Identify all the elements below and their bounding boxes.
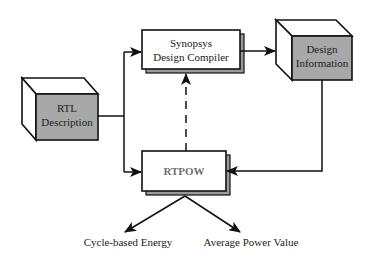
- compiler-label-line2: Design Compiler: [153, 51, 229, 63]
- rtl-label-line2: Description: [41, 116, 93, 128]
- output-average-power-value: Average Power Value: [204, 236, 299, 248]
- rtl-label-line1: RTL: [57, 102, 77, 114]
- edge-design-info-to-rtpow: [227, 80, 322, 171]
- design-info-label-line2: Information: [296, 57, 349, 69]
- compiler-label-line1: Synopsys: [170, 37, 212, 49]
- flow-diagram: RTL Description Synopsys Design Compiler…: [0, 0, 372, 262]
- edge-rtpow-to-energy: [125, 196, 185, 232]
- edge-rtpow-to-power: [185, 196, 240, 232]
- node-rtl-description: RTL Description: [22, 78, 98, 140]
- edges: [98, 51, 322, 232]
- design-info-label-line1: Design: [306, 43, 338, 55]
- rtpow-label: RTPOW: [163, 165, 204, 177]
- node-design-compiler: Synopsys Design Compiler: [142, 30, 244, 73]
- output-cycle-based-energy: Cycle-based Energy: [84, 236, 173, 248]
- node-design-information: Design Information: [276, 20, 352, 80]
- node-rtpow: RTPOW: [142, 151, 230, 195]
